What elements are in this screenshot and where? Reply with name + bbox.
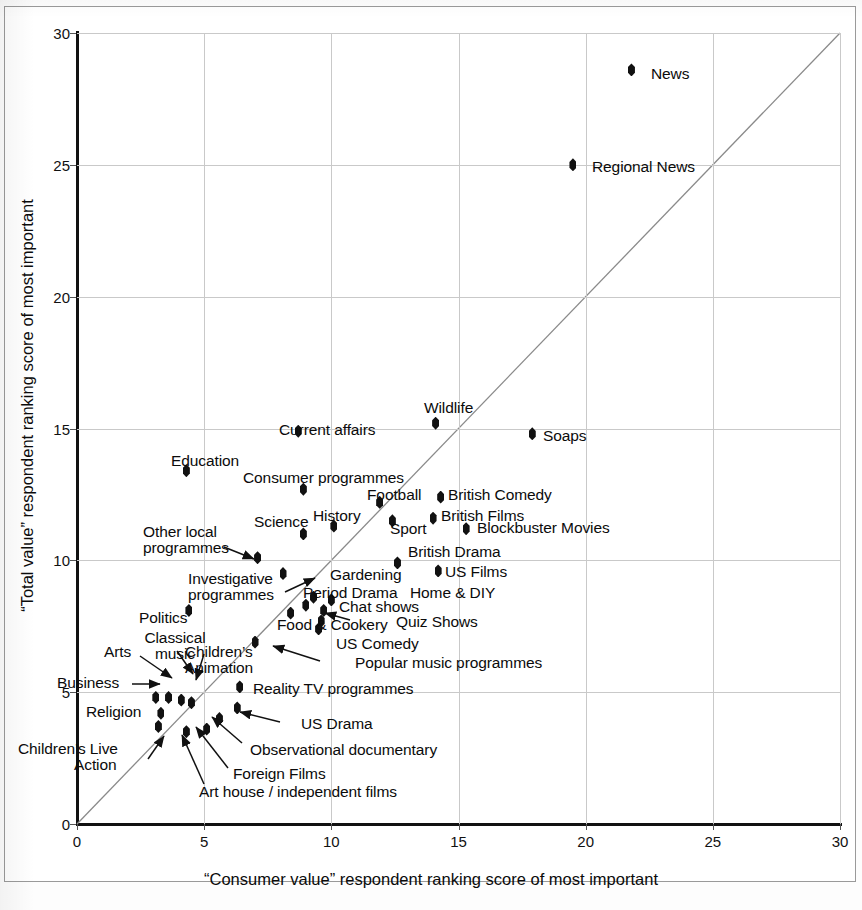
label-other-local-programmes: Other localprogrammes [143, 524, 235, 556]
x-tick-label: 0 [73, 833, 81, 850]
x-tick-mark [840, 824, 841, 830]
label-regional-news: Regional News [592, 159, 695, 175]
y-tick-label: 0 [44, 816, 70, 833]
label-football: Football [367, 487, 421, 503]
y-tick-label: 10 [44, 552, 70, 569]
x-tick-mark [77, 824, 78, 830]
y-tick-mark [70, 560, 76, 561]
scan-margin-handwriting [180, 890, 840, 907]
label-blockbuster-movies: Blockbuster Movies [477, 520, 610, 536]
label-foreign-films: Foreign Films [233, 766, 326, 782]
label-news: News [651, 66, 689, 82]
label-gardening: Gardening [330, 567, 401, 583]
label-current-affairs: Current affairs [279, 422, 375, 438]
label-observational-documentary: Observational documentary [250, 742, 437, 758]
x-tick-label: 20 [577, 833, 594, 850]
label-politics: Politics [139, 610, 187, 626]
plot-area [77, 33, 840, 824]
y-tick-mark [70, 297, 76, 298]
label-arts: Arts [104, 644, 131, 660]
label-wildlife: Wildlife [424, 400, 473, 416]
label-soaps: Soaps [543, 428, 586, 444]
label-popular-music: Popular music programmes [355, 655, 542, 671]
label-art-house: Art house / independent films [199, 784, 397, 800]
x-tick-mark [586, 824, 587, 830]
x-tick-label: 30 [832, 833, 849, 850]
y-tick-mark [70, 429, 76, 430]
label-home-diy: Home & DIY [410, 585, 495, 601]
label-history: History [313, 508, 361, 524]
y-tick-mark [70, 33, 76, 34]
label-business: Business [57, 675, 119, 691]
label-british-drama: British Drama [408, 544, 501, 560]
x-tick-label: 10 [323, 833, 340, 850]
label-science: Science [254, 514, 308, 530]
y-tick-label: 15 [44, 420, 70, 437]
x-tick-mark [713, 824, 714, 830]
label-us-films: US Films [445, 564, 507, 580]
gridline-horizontal [77, 165, 840, 166]
label-childrens-animation: Children’sAnimation [185, 644, 269, 676]
label-consumer-programmes: Consumer programmes [243, 470, 404, 486]
gridline-horizontal [77, 297, 840, 298]
label-education: Education [171, 453, 239, 469]
scanned-chart-page: “Total value” respondent ranking score o… [0, 0, 862, 910]
label-quiz-shows: Quiz Shows [396, 614, 478, 630]
y-tick-mark [70, 692, 76, 693]
x-tick-label: 5 [200, 833, 208, 850]
gridline-horizontal [77, 692, 840, 693]
x-tick-mark [459, 824, 460, 830]
y-tick-label: 20 [44, 288, 70, 305]
label-religion: Religion [86, 704, 141, 720]
label-us-comedy: US Comedy [336, 636, 419, 652]
y-tick-label: 30 [44, 25, 70, 42]
x-tick-mark [331, 824, 332, 830]
x-tick-label: 25 [704, 833, 721, 850]
label-reality-tv: Reality TV programmes [253, 681, 413, 697]
gridline-horizontal [77, 33, 840, 34]
y-axis-label: “Total value” respondent ranking score o… [18, 106, 37, 706]
y-tick-label: 25 [44, 156, 70, 173]
gridline-vertical [840, 33, 841, 824]
gridline-horizontal [77, 429, 840, 430]
label-investigative-programmes: Investigativeprogrammes [188, 571, 284, 603]
label-food-cookery: Food & Cookery [277, 617, 388, 633]
x-tick-mark [204, 824, 205, 830]
y-tick-mark [70, 824, 76, 825]
x-axis-label: “Consumer value” respondent ranking scor… [0, 870, 862, 889]
label-sport: Sport [390, 521, 427, 537]
gridline-horizontal [77, 560, 840, 561]
label-childrens-live-action: Children’s LiveAction [18, 741, 118, 773]
y-tick-mark [70, 165, 76, 166]
x-tick-label: 15 [450, 833, 467, 850]
label-us-drama: US Drama [301, 716, 373, 732]
label-british-comedy: British Comedy [448, 487, 552, 503]
